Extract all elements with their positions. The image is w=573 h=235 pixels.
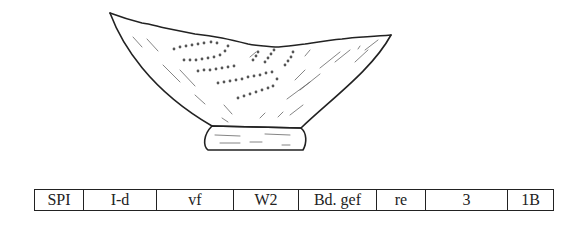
code-table: SPI I-d vf W2 Bd. gef re 3 1B — [34, 189, 554, 211]
bowl-drawing — [0, 0, 573, 175]
code-cell-2: I-d — [84, 190, 157, 211]
code-cell-7: 3 — [426, 190, 508, 211]
code-cell-8: 1B — [508, 190, 554, 211]
bowl-right-wall — [301, 35, 391, 128]
code-cell-6: re — [377, 190, 426, 211]
code-cell-3: vf — [157, 190, 234, 211]
bowl-left-wall — [110, 13, 212, 126]
code-cell-4: W2 — [234, 190, 299, 211]
code-cell-1: SPI — [35, 190, 84, 211]
bowl-foot — [205, 126, 306, 150]
code-row: SPI I-d vf W2 Bd. gef re 3 1B — [35, 190, 554, 211]
code-cell-5: Bd. gef — [299, 190, 377, 211]
bowl-rim — [110, 13, 391, 47]
